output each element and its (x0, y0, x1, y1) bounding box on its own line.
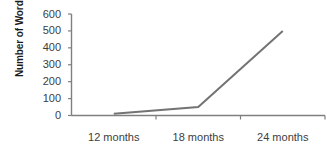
axis-lines (72, 14, 326, 116)
x-axis-tick-label: 18 months (153, 131, 243, 143)
x-axis-tick-label: 12 months (69, 131, 159, 143)
x-axis-tick-label: 24 months (238, 131, 327, 143)
data-series-line (114, 31, 283, 114)
line-chart: Number of Words 0100200300400500600 12 m… (0, 0, 327, 155)
